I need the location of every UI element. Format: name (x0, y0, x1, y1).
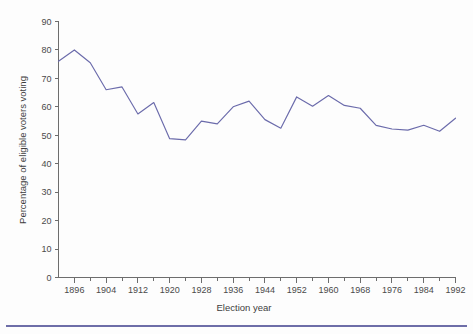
y-tick-label: 50 (41, 131, 51, 141)
x-tick-label: 1952 (287, 285, 307, 295)
x-tick-label: 1896 (64, 285, 84, 295)
x-tick-label: 1920 (160, 285, 180, 295)
x-tick-label: 1992 (445, 285, 465, 295)
chart-figure: 0102030405060708090 18961904191219201928… (0, 0, 473, 334)
series-line-0 (59, 50, 456, 140)
y-axis-title: Percentage of eligible voters voting (17, 76, 28, 224)
y-tick-label: 30 (41, 187, 51, 197)
x-axis-title: Election year (217, 302, 272, 313)
y-tick-label: 20 (41, 216, 51, 226)
y-tick-label: 90 (41, 17, 51, 27)
y-tick-label: 60 (41, 102, 51, 112)
x-tick-label: 1968 (350, 285, 370, 295)
data-series-group (59, 50, 456, 140)
x-tick-label: 1936 (223, 285, 243, 295)
x-tick-label: 1984 (414, 285, 434, 295)
y-tick-label: 70 (41, 74, 51, 84)
x-tick-label: 1912 (128, 285, 148, 295)
y-tick-label: 40 (41, 159, 51, 169)
y-tick-label: 10 (41, 244, 51, 254)
x-axis: 1896190419121920192819361944195219601968… (59, 278, 466, 295)
footer-rule (6, 325, 467, 327)
x-tick-label: 1904 (96, 285, 116, 295)
x-tick-label: 1944 (255, 285, 275, 295)
y-axis: 0102030405060708090 (41, 17, 58, 283)
y-tick-label: 80 (41, 45, 51, 55)
x-tick-label: 1928 (191, 285, 211, 295)
voter-turnout-line-chart: 0102030405060708090 18961904191219201928… (0, 0, 473, 334)
x-tick-label: 1976 (382, 285, 402, 295)
y-tick-label: 0 (46, 273, 51, 283)
x-tick-label: 1960 (318, 285, 338, 295)
